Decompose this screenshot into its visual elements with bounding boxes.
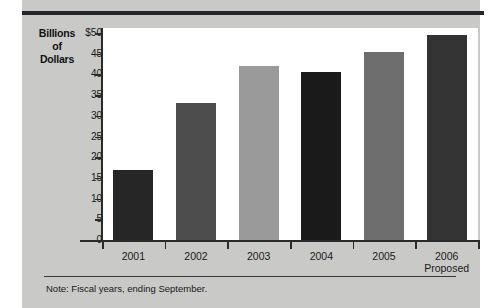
x-axis-label-2004: 2004 bbox=[291, 250, 351, 262]
chart-page: Billions of Dollars $5045403530252015105… bbox=[0, 0, 503, 308]
x-tick-mark bbox=[290, 242, 292, 249]
y-axis-ticks: $50454035302520151050 bbox=[56, 0, 102, 308]
bar-2003 bbox=[239, 66, 279, 240]
y-tick-mark bbox=[95, 54, 102, 56]
x-axis-line bbox=[80, 240, 480, 242]
bar-2004 bbox=[301, 72, 341, 240]
note-divider-rule bbox=[44, 276, 456, 277]
y-tick-mark bbox=[95, 199, 102, 201]
x-tick-mark bbox=[165, 242, 167, 249]
bar-2005 bbox=[364, 52, 404, 240]
y-tick-mark bbox=[95, 116, 102, 118]
plot-area bbox=[102, 28, 478, 240]
x-axis-label-2006: 2006 bbox=[417, 250, 477, 262]
x-axis-sublabel-2006: Proposed bbox=[417, 262, 477, 274]
x-tick-mark bbox=[227, 242, 229, 249]
x-tick-mark bbox=[478, 242, 480, 249]
bar-2001 bbox=[113, 170, 153, 240]
y-tick-mark bbox=[95, 178, 102, 180]
y-tick-mark bbox=[95, 157, 102, 159]
x-axis-label-2001: 2001 bbox=[103, 250, 163, 262]
y-tick-mark bbox=[95, 137, 102, 139]
x-tick-mark bbox=[415, 242, 417, 249]
y-tick-mark bbox=[95, 219, 102, 221]
x-axis-label-2003: 2003 bbox=[229, 250, 289, 262]
chart-note: Note: Fiscal years, ending September. bbox=[46, 283, 207, 294]
bar-2006 bbox=[427, 35, 467, 240]
x-axis-label-2005: 2005 bbox=[354, 250, 414, 262]
y-tick-mark bbox=[95, 74, 102, 76]
y-tick-mark bbox=[95, 33, 102, 35]
x-tick-mark bbox=[353, 242, 355, 249]
x-axis-label-2002: 2002 bbox=[166, 250, 226, 262]
bar-2002 bbox=[176, 103, 216, 240]
x-tick-mark bbox=[102, 242, 104, 249]
y-tick-mark bbox=[95, 95, 102, 97]
y-tick-mark bbox=[95, 240, 102, 242]
